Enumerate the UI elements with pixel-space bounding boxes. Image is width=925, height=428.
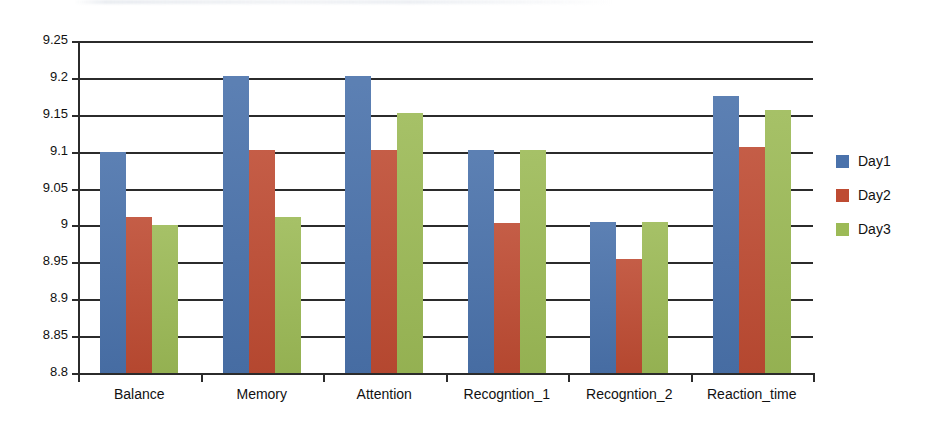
bar-Day2-Recogntion_2[interactable] bbox=[616, 259, 642, 373]
legend-item-Day3[interactable]: Day3 bbox=[836, 212, 891, 246]
bar-Day2-Attention[interactable] bbox=[371, 150, 397, 373]
x-tick-mark bbox=[446, 373, 448, 382]
x-axis-label-Reaction_time: Reaction_time bbox=[691, 386, 814, 402]
bar-Day3-Recogntion_2[interactable] bbox=[642, 222, 668, 373]
bar-Day3-Memory[interactable] bbox=[275, 217, 301, 373]
bar-Day2-Balance[interactable] bbox=[126, 217, 152, 373]
y-axis-tick-label: 9 bbox=[61, 216, 68, 231]
legend: Day1Day2Day3 bbox=[836, 144, 891, 246]
x-axis-label-Recogntion_2: Recogntion_2 bbox=[568, 386, 691, 402]
bar-Day3-Balance[interactable] bbox=[152, 225, 178, 373]
y-axis-tick-label: 9.2 bbox=[50, 69, 68, 84]
legend-item-Day1[interactable]: Day1 bbox=[836, 144, 891, 178]
x-axis-label-Balance: Balance bbox=[78, 386, 201, 402]
legend-item-Day2[interactable]: Day2 bbox=[836, 178, 891, 212]
x-axis-label-Memory: Memory bbox=[201, 386, 324, 402]
bar-Day1-Attention[interactable] bbox=[345, 76, 371, 373]
y-axis-tick-label: 9.25 bbox=[43, 32, 68, 47]
bar-group bbox=[201, 41, 324, 373]
legend-label: Day2 bbox=[858, 187, 891, 203]
bar-chart: 9.259.29.159.19.0598.958.98.858.8 Balanc… bbox=[0, 0, 925, 428]
legend-swatch-icon bbox=[836, 155, 849, 168]
x-tick-mark bbox=[201, 373, 203, 382]
bars-layer bbox=[78, 41, 813, 373]
bar-group bbox=[568, 41, 691, 373]
bar-Day3-Attention[interactable] bbox=[397, 113, 423, 373]
x-tick-mark bbox=[78, 373, 80, 382]
bar-Day1-Recogntion_2[interactable] bbox=[590, 222, 616, 373]
y-axis-tick-label: 8.85 bbox=[43, 327, 68, 342]
bar-group bbox=[446, 41, 569, 373]
bar-Day3-Reaction_time[interactable] bbox=[765, 110, 791, 373]
bar-Day1-Memory[interactable] bbox=[223, 76, 249, 373]
x-tick-mark bbox=[568, 373, 570, 382]
bar-Day2-Recogntion_1[interactable] bbox=[494, 223, 520, 374]
x-axis-label-Attention: Attention bbox=[323, 386, 446, 402]
x-tick-mark bbox=[813, 373, 815, 382]
bar-Day1-Reaction_time[interactable] bbox=[713, 96, 739, 373]
legend-label: Day3 bbox=[858, 221, 891, 237]
y-axis-tick-label: 8.9 bbox=[50, 290, 68, 305]
bar-Day1-Recogntion_1[interactable] bbox=[468, 150, 494, 373]
y-axis-tick-label: 8.95 bbox=[43, 253, 68, 268]
y-axis-tick-label: 9.05 bbox=[43, 180, 68, 195]
bar-Day2-Memory[interactable] bbox=[249, 150, 275, 373]
legend-label: Day1 bbox=[858, 153, 891, 169]
bar-group bbox=[691, 41, 814, 373]
y-axis-tick-label: 8.8 bbox=[50, 364, 68, 379]
bar-Day2-Reaction_time[interactable] bbox=[739, 147, 765, 373]
bar-group bbox=[323, 41, 446, 373]
legend-swatch-icon bbox=[836, 189, 849, 202]
bar-Day3-Recogntion_1[interactable] bbox=[520, 150, 546, 373]
legend-swatch-icon bbox=[836, 223, 849, 236]
y-axis-tick-label: 9.1 bbox=[50, 143, 68, 158]
x-axis-label-Recogntion_1: Recogntion_1 bbox=[446, 386, 569, 402]
clipped-title-remnant bbox=[74, 0, 614, 4]
bar-group bbox=[78, 41, 201, 373]
y-axis-tick-label: 9.15 bbox=[43, 106, 68, 121]
bar-Day1-Balance[interactable] bbox=[100, 152, 126, 373]
x-tick-mark bbox=[323, 373, 325, 382]
x-tick-mark bbox=[691, 373, 693, 382]
